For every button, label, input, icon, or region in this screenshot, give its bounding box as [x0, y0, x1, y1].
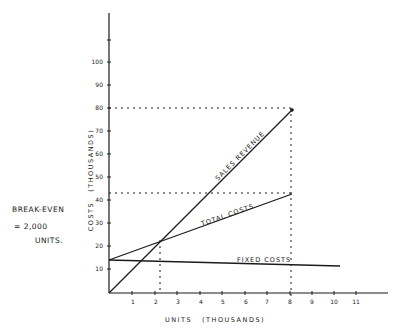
y-tick-label: 90 [95, 81, 103, 88]
break-even-chart: 10 20 30 40 50 60 70 80 90 100 1 2 3 4 5… [0, 0, 405, 334]
total-costs-line [109, 194, 292, 260]
x-tick-label: 6 [244, 298, 248, 305]
x-tick-label: 1 [131, 298, 135, 305]
x-tick-labels: 1 2 3 4 5 6 7 8 9 10 11 [131, 298, 360, 305]
note-line-1: BREAK-EVEN [12, 205, 64, 214]
sales-revenue-endpoint [290, 108, 294, 112]
y-tick-label: 100 [92, 58, 104, 65]
x-tick-label: 7 [265, 298, 269, 305]
x-tick-label: 4 [199, 298, 203, 305]
x-tick-label: 9 [310, 298, 314, 305]
y-tick-label: 20 [95, 242, 103, 249]
y-tick-label: 30 [95, 219, 103, 226]
sales-revenue-line [109, 110, 292, 293]
y-tick-label: 80 [95, 104, 103, 111]
x-axis-title: UNITS(THOUSANDS) [165, 316, 265, 324]
sales-revenue-label: SALES REVENUE [214, 130, 267, 183]
note-line-2: = 2,000 [14, 222, 48, 231]
y-tick-label: 60 [95, 150, 103, 157]
x-tick-label: 8 [288, 298, 292, 305]
x-tick-label: 3 [176, 298, 180, 305]
note-line-3: UNITS. [35, 236, 63, 245]
y-tick-label: 40 [95, 196, 103, 203]
y-axis-title: COSTS(THOUSANDS) [87, 129, 95, 231]
fixed-costs-line [109, 260, 340, 266]
y-tick-label: 70 [95, 127, 103, 134]
x-tick-label: 11 [352, 298, 360, 305]
break-even-note: BREAK-EVEN = 2,000 UNITS. [12, 205, 64, 245]
y-tick-label: 50 [95, 173, 103, 180]
total-costs-label: TOTAL COSTS [199, 202, 255, 228]
x-tick-label: 2 [154, 298, 158, 305]
x-tick-label: 10 [330, 298, 338, 305]
fixed-costs-label: FIXED COSTS [237, 256, 291, 264]
y-tick-label: 10 [95, 265, 103, 272]
x-tick-label: 5 [221, 298, 225, 305]
